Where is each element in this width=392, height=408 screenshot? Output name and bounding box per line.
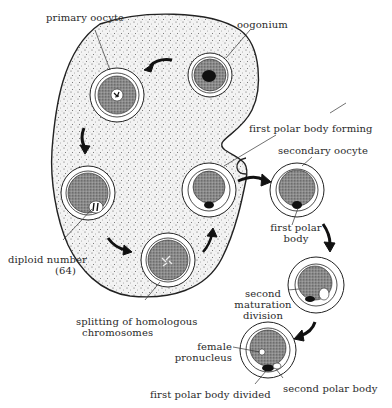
diploid-cell: [61, 166, 115, 220]
label-secondary-oocyte: secondary oocyte: [278, 145, 368, 156]
label-female-pronucleus-line2: pronucleus: [172, 352, 232, 363]
label-splitting-line1: splitting of homologous: [76, 316, 198, 327]
label-oogonium: oogonium: [237, 19, 288, 30]
label-first-polar-body-forming: first polar body forming: [249, 123, 373, 134]
label-splitting: splitting of homologous chromosomes: [76, 316, 198, 338]
primary-oocyte-cell: [90, 68, 144, 122]
label-first-polar-body-line2: body: [266, 233, 326, 244]
arrow-head-icon: [294, 330, 304, 341]
label-splitting-line2: chromosomes: [76, 327, 198, 338]
splitting-cell: [141, 233, 195, 287]
label-second-maturation-line1: second: [231, 288, 295, 299]
label-first-polar-body-line1: first polar: [266, 222, 326, 233]
oogenesis-diagram: primary oocyte oogonium first polar body…: [0, 0, 392, 408]
label-second-maturation-line2: maturation: [231, 299, 295, 310]
oogonium-cell: [188, 53, 232, 97]
label-second-maturation-line3: division: [231, 310, 295, 321]
label-second-maturation-division: second maturation division: [231, 288, 295, 321]
label-primary-oocyte: primary oocyte: [46, 12, 124, 23]
label-first-polar-body-divided: first polar body divided: [150, 389, 271, 400]
label-diploid-number: diploid number (64): [8, 254, 87, 276]
second-maturation-cell: [288, 257, 344, 313]
secondary-oocyte-cell: [270, 163, 324, 217]
label-first-polar-body: first polar body: [266, 222, 326, 244]
label-diploid-number-line1: diploid number: [8, 254, 87, 265]
label-diploid-number-line2: (64): [8, 265, 87, 276]
label-female-pronucleus: female pronucleus: [172, 341, 232, 363]
label-second-polar-body: second polar body: [283, 383, 377, 394]
label-female-pronucleus-line1: female: [172, 341, 232, 352]
arrow-head-icon: [261, 174, 271, 186]
first-polar-body-forming-cell: [182, 163, 236, 217]
